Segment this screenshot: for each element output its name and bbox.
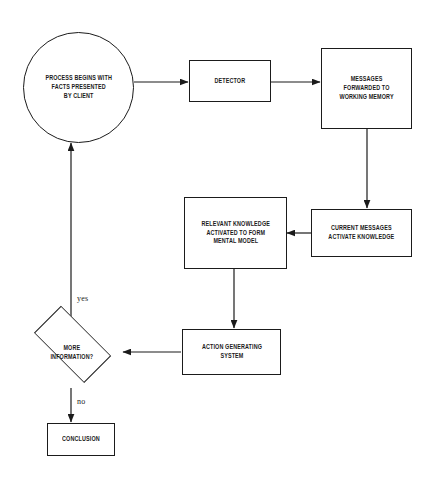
node-messages-forwarded[interactable]: MESSAGES FORWARDED TO WORKING MEMORY <box>321 48 412 129</box>
node-relevant-knowledge-label: RELEVANT KNOWLEDGE ACTIVATED TO FORM MEN… <box>201 220 269 247</box>
node-relevant-knowledge[interactable]: RELEVANT KNOWLEDGE ACTIVATED TO FORM MEN… <box>184 197 287 269</box>
flowchart-canvas: PROCESS BEGINS WITH FACTS PRESENTED BY C… <box>0 0 434 483</box>
node-detector[interactable]: DETECTOR <box>189 60 271 102</box>
edge-label-no: no <box>77 397 85 406</box>
node-conclusion[interactable]: CONCLUSION <box>47 423 115 456</box>
node-more-information-label: MORE INFORMATION? <box>50 344 93 362</box>
node-current-messages-label: CURRENT MESSAGES ACTIVATE KNOWLEDGE <box>329 224 395 242</box>
node-action-generating-system-label: ACTION GENERATING SYSTEM <box>201 343 261 361</box>
node-process-begins-label: PROCESS BEGINS WITH FACTS PRESENTED BY C… <box>45 74 112 101</box>
edge-label-yes: yes <box>77 294 88 303</box>
node-process-begins[interactable]: PROCESS BEGINS WITH FACTS PRESENTED BY C… <box>23 32 134 143</box>
node-more-information[interactable]: MORE INFORMATION? <box>22 316 121 389</box>
node-action-generating-system[interactable]: ACTION GENERATING SYSTEM <box>182 329 281 375</box>
node-detector-label: DETECTOR <box>215 77 246 86</box>
node-messages-forwarded-label: MESSAGES FORWARDED TO WORKING MEMORY <box>339 75 393 102</box>
node-current-messages[interactable]: CURRENT MESSAGES ACTIVATE KNOWLEDGE <box>311 209 412 257</box>
node-conclusion-label: CONCLUSION <box>62 435 100 444</box>
